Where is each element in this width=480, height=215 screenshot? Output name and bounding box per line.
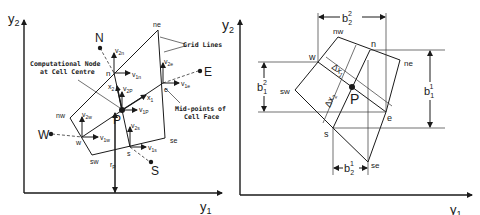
corner-nw: nw: [56, 112, 66, 119]
annotation-midpoints-1: Mid-points of: [175, 105, 226, 113]
v1p-label: v1P: [139, 106, 149, 115]
face-n: n: [106, 69, 110, 78]
dx2-label: Δx2: [323, 92, 339, 110]
dx2-guide: [323, 45, 356, 123]
dash-s-S: [130, 147, 150, 162]
v1e-label: v1e: [181, 80, 190, 89]
x2-label: x2: [108, 83, 115, 92]
right-face-n: n: [371, 39, 376, 49]
right-node-P-label: P: [350, 91, 359, 107]
node-E-label: E: [204, 65, 212, 79]
right-diagram: y2 y1 b22 b12 b11 b21 nw: [222, 8, 472, 215]
v2s-label: v2s: [131, 122, 140, 131]
x1-label: x1: [147, 94, 154, 103]
diagram-canvas: y2 y1 N E W S P ne nw sw: [0, 0, 480, 215]
dx1-label: Δx1: [329, 62, 347, 79]
v1w-label: v1w: [100, 134, 110, 143]
grid-line-pointer-2: [164, 46, 185, 52]
right-face-w: w: [308, 52, 316, 62]
right-corner-sw: sw: [280, 87, 290, 96]
corner-ne: ne: [153, 21, 161, 28]
v2p-label: v2P: [123, 85, 133, 94]
annotation-midpoints-2: Cell Face: [184, 113, 219, 121]
left-y1-label: y1: [200, 199, 212, 215]
grid-line-pointer-1: [160, 37, 185, 44]
right-corner-nw: nw: [333, 27, 343, 36]
annotation-comp-node-2: at Cell Centre: [40, 68, 95, 76]
right-face-e: e: [387, 113, 392, 123]
face-s: s: [127, 150, 131, 157]
left-diagram: y2 y1 N E W S P ne nw sw: [8, 11, 226, 215]
right-y2-label: y2: [222, 17, 234, 35]
node-W-dot: [49, 132, 53, 136]
v2e-label: v2e: [164, 58, 173, 67]
v1s-label: v1s: [148, 144, 157, 153]
right-corner-ne: ne: [404, 59, 413, 68]
left-y2-label: y2: [8, 11, 20, 28]
face-e: e: [164, 86, 168, 93]
node-N-label: N: [95, 31, 104, 45]
right-y1-label: y1: [450, 202, 462, 215]
v2n-label: v2n: [115, 47, 124, 56]
right-face-s: s: [324, 129, 329, 139]
node-P-label: P: [113, 113, 121, 127]
right-node-P-dot: [349, 84, 355, 90]
v2w-label: v2w: [82, 111, 92, 120]
face-w: w: [75, 139, 82, 146]
v1n-label: v1n: [132, 71, 141, 80]
corner-sw: sw: [90, 158, 100, 165]
node-W-label: W: [38, 128, 50, 142]
node-N-dot: [98, 46, 102, 50]
annotation-comp-node-1: Computational Node: [30, 60, 101, 68]
node-E-dot: [198, 69, 202, 73]
node-S-label: S: [151, 164, 159, 178]
right-corner-se: se: [371, 161, 380, 170]
figure: y2 y1 N E W S P ne nw sw: [0, 0, 480, 215]
dash-W-w: [52, 134, 82, 137]
annotation-grid-lines: Grid Lines: [183, 41, 222, 49]
corner-se: se: [170, 137, 178, 144]
